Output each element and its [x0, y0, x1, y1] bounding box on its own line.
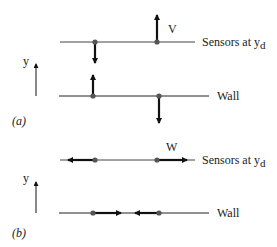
wall-label-a: Wall: [217, 89, 239, 104]
sensor-point-right-b: [154, 157, 159, 162]
sensor-label-sub-b: d: [260, 157, 266, 169]
panel-a: [36, 15, 209, 123]
y-axis-label-a: y: [23, 54, 29, 69]
wall-point-left-b: [90, 210, 95, 215]
sensor-point-left-a: [92, 39, 97, 44]
panel-label-a: (a): [12, 114, 26, 129]
sensor-label-text-b: Sensors at y: [202, 153, 260, 167]
sensor-label-b: Sensors at yd: [202, 153, 266, 168]
panel-label-b: (b): [12, 226, 26, 241]
wall-point-right-b: [156, 210, 161, 215]
wall-label-b: Wall: [217, 206, 239, 221]
sensor-point-left-b: [92, 157, 97, 162]
y-axis-label-b: y: [23, 171, 29, 186]
sensor-label-sub-a: d: [260, 39, 266, 51]
velocity-label-v: V: [168, 22, 177, 37]
wall-point-left-a: [90, 93, 95, 98]
panel-b: [36, 157, 209, 215]
sensor-label-text-a: Sensors at y: [202, 35, 260, 49]
wall-point-right-a: [156, 93, 161, 98]
sensor-point-right-a: [154, 39, 159, 44]
sensor-label-a: Sensors at yd: [202, 35, 266, 50]
velocity-label-w: W: [166, 140, 177, 155]
